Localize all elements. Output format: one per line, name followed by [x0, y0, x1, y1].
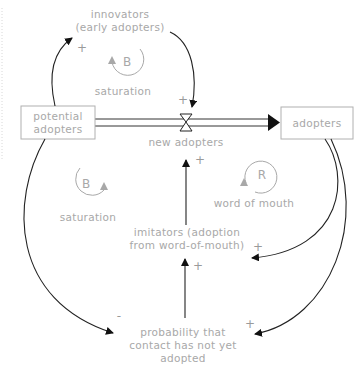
svg-text:B: B — [123, 55, 131, 69]
svg-text:adopters: adopters — [34, 123, 83, 135]
svg-text:adopters: adopters — [293, 117, 342, 129]
link-adopters-to-probability — [255, 139, 346, 334]
polarity-sign: + — [178, 93, 188, 107]
loop-reinforcing-right: R word of mouth — [214, 161, 295, 209]
svg-text:imitators (adoption: imitators (adoption — [134, 226, 240, 238]
svg-text:(early adopters): (early adopters) — [75, 21, 164, 33]
valve-icon[interactable] — [180, 114, 192, 131]
polarity-sign: + — [195, 153, 205, 167]
svg-text:R: R — [258, 168, 266, 182]
svg-text:saturation: saturation — [95, 85, 152, 97]
polarity-sign: + — [193, 259, 203, 273]
svg-text:potential: potential — [33, 110, 82, 122]
variable-probability[interactable]: probability that contact has not yet ado… — [129, 326, 237, 364]
svg-text:contact has not yet: contact has not yet — [129, 339, 237, 351]
link-potential-to-probability — [24, 139, 113, 333]
polarity-sign: + — [253, 240, 263, 254]
svg-text:word of mouth: word of mouth — [214, 197, 295, 209]
svg-text:probability that: probability that — [140, 326, 225, 338]
link-potential-to-innovators — [52, 38, 72, 106]
svg-text:B: B — [82, 177, 90, 191]
stock-potential-adopters[interactable]: potential adopters — [21, 106, 95, 139]
svg-text:innovators: innovators — [91, 8, 150, 20]
svg-text:adopted: adopted — [160, 352, 206, 364]
flow-label-new-adopters: new adopters — [148, 136, 223, 148]
polarity-sign: - — [117, 309, 121, 323]
loop-balancing-left: B saturation — [60, 168, 117, 223]
variable-innovators[interactable]: innovators (early adopters) — [75, 8, 164, 33]
svg-text:saturation: saturation — [60, 211, 117, 223]
polarity-sign: + — [245, 317, 255, 331]
variable-imitators[interactable]: imitators (adoption from word-of-mouth) — [130, 226, 245, 251]
stock-adopters[interactable]: adopters — [281, 107, 353, 139]
loop-balancing-top: B saturation — [95, 49, 152, 97]
svg-text:from word-of-mouth): from word-of-mouth) — [130, 239, 245, 251]
stock-flow-diagram: new adopters potential adopters adopters… — [0, 0, 362, 372]
polarity-sign: + — [77, 41, 87, 55]
